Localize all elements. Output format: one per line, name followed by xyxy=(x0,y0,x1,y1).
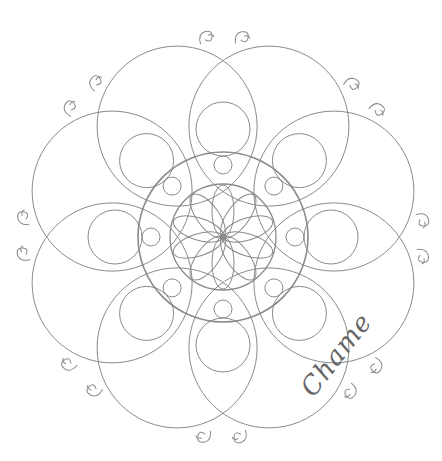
mandala-drawing xyxy=(0,0,442,461)
inner-flower xyxy=(170,185,276,289)
